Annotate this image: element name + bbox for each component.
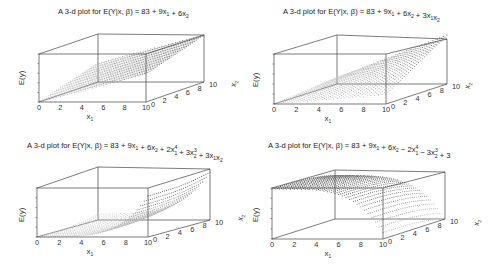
x1-axis-label: x1 — [325, 249, 332, 259]
box-edge-right-top — [386, 39, 447, 54]
x1-tick-label: 2 — [58, 103, 62, 112]
surface-points — [271, 175, 445, 233]
x2-tick-label: 8 — [440, 86, 444, 95]
z-axis-label: E(y) — [17, 207, 26, 222]
x2-axis-label: x2 — [472, 218, 483, 227]
box-edge-left-top — [39, 34, 98, 54]
x2-tick-label: 4 — [413, 229, 417, 238]
x1-tick-label: 0 — [37, 103, 41, 112]
x2-tick-label: 6 — [428, 90, 432, 99]
box-edge-back-top — [337, 35, 447, 39]
x1-axis-label: x1 — [87, 247, 94, 257]
x1-tick-label: 0 — [35, 238, 39, 247]
x1-tick-label: 0 — [270, 240, 274, 249]
x2-axis-label: x2 — [463, 81, 474, 90]
x1-tick-label: 2 — [57, 238, 61, 247]
x1-axis-label: x1 — [87, 112, 94, 122]
x1-tick-label: 10 — [144, 238, 152, 247]
plot-title: A 3-d plot for E(Y|x, β) = 83 + 9x1 + 6x… — [58, 7, 189, 19]
x2-tick-label: 8 — [197, 84, 201, 93]
x2-axis-label: x2 — [229, 79, 240, 88]
x1-axis-label: x1 — [325, 114, 332, 124]
plot-panel-4: A 3-d plot for E(Y|x, β) = 83 + 9x1 + 6x… — [251, 141, 483, 259]
x1-tick-label: 4 — [314, 240, 318, 249]
box-edge-right-top — [146, 35, 204, 54]
box-edge-back-top — [98, 167, 210, 169]
box-edge-left-top — [37, 167, 98, 188]
x2-tick-label: 4 — [174, 92, 178, 101]
z-axis-label: E(y) — [17, 70, 26, 85]
x1-tick-label: 6 — [337, 240, 341, 249]
x2-tick-label: 6 — [425, 225, 429, 234]
x2-tick-label: 0 — [388, 237, 392, 246]
x1-tick-label: 8 — [359, 240, 363, 249]
x2-tick-label: 8 — [203, 221, 207, 230]
box-edge-back-top — [335, 170, 445, 172]
x2-tick-label: 10 — [215, 218, 223, 227]
x2-tick-label: 2 — [163, 96, 167, 105]
x2-tick-label: 10 — [450, 217, 458, 226]
x1-tick-label: 8 — [362, 105, 366, 114]
x1-tick-label: 8 — [123, 103, 127, 112]
x2-tick-label: 2 — [403, 98, 407, 107]
x1-tick-label: 8 — [124, 238, 128, 247]
surface-points — [38, 34, 204, 102]
x2-tick-label: 0 — [151, 100, 155, 109]
x2-tick-label: 8 — [438, 221, 442, 230]
x1-tick-label: 4 — [79, 238, 83, 247]
box-edge-right-top — [148, 169, 210, 188]
plot-title: A 3-d plot for E(Y|x, β) = 83 + 9x1 + 6x… — [268, 141, 451, 160]
z-axis-label: E(y) — [251, 207, 260, 222]
x1-tick-label: 6 — [101, 103, 105, 112]
x2-tick-label: 6 — [186, 88, 190, 97]
x1-tick-label: 4 — [317, 105, 321, 114]
x1-tick-label: 2 — [294, 105, 298, 114]
plot-panel-1: A 3-d plot for E(Y|x, β) = 83 + 9x1 + 6x… — [17, 7, 240, 122]
x2-tick-label: 10 — [209, 80, 217, 89]
x2-tick-label: 2 — [400, 233, 404, 242]
x1-tick-label: 10 — [382, 105, 390, 114]
x1-tick-label: 4 — [80, 103, 84, 112]
box-edge-back-top — [98, 34, 204, 35]
z-axis-label: E(y) — [251, 72, 260, 87]
x1-tick-label: 2 — [292, 240, 296, 249]
x2-tick-label: 10 — [452, 82, 460, 91]
plot-panel-3: A 3-d plot for E(Y|x, β) = 83 + 9x1 + 6x… — [17, 141, 247, 257]
x1-tick-label: 0 — [272, 105, 276, 114]
x2-tick-label: 2 — [165, 232, 169, 241]
x2-tick-label: 4 — [415, 94, 419, 103]
x1-tick-label: 6 — [339, 105, 343, 114]
x2-tick-label: 0 — [153, 235, 157, 244]
surface-points — [36, 171, 210, 237]
figure-root: A 3-d plot for E(Y|x, β) = 83 + 9x1 + 6x… — [0, 0, 495, 271]
x1-tick-label: 6 — [102, 238, 106, 247]
plot-panel-2: A 3-d plot for E(Y|x, β) = 83 + 9x1 + 6x… — [251, 7, 474, 124]
box-edge-right-top — [383, 172, 445, 188]
x2-tick-label: 4 — [178, 228, 182, 237]
x2-axis-label: x2 — [236, 213, 247, 222]
x1-tick-label: 10 — [142, 103, 150, 112]
box-edge-left-bottom — [272, 219, 335, 239]
x1-tick-label: 10 — [379, 240, 387, 249]
plot-title: A 3-d plot for E(Y|x, β) = 83 + 9x1 + 6x… — [283, 7, 440, 23]
x2-tick-label: 6 — [190, 225, 194, 234]
plot-title: A 3-d plot for E(Y|x, β) = 83 + 9x1 + 6x… — [27, 141, 223, 163]
x2-tick-label: 0 — [391, 102, 395, 111]
plots-canvas: A 3-d plot for E(Y|x, β) = 83 + 9x1 + 6x… — [0, 0, 495, 271]
box-edge-left-top — [274, 35, 337, 54]
